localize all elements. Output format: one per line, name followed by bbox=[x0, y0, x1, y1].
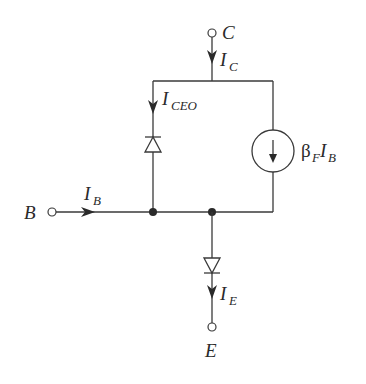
svg-text:C: C bbox=[229, 59, 238, 74]
base-wire bbox=[56, 207, 273, 217]
svg-text:I: I bbox=[161, 88, 170, 109]
junction-dot-left bbox=[149, 208, 157, 216]
svg-text:CEO: CEO bbox=[171, 98, 198, 113]
leakage-diode-icon bbox=[145, 137, 161, 152]
collector-wire bbox=[207, 37, 217, 81]
current-source-icon bbox=[252, 130, 294, 172]
current-source-label: β F I B bbox=[301, 140, 336, 165]
svg-text:β: β bbox=[301, 140, 311, 161]
emitter-branch bbox=[204, 212, 220, 323]
ib-label: I B bbox=[83, 183, 101, 208]
svg-text:E: E bbox=[228, 293, 237, 308]
svg-text:B: B bbox=[93, 193, 101, 208]
svg-text:I: I bbox=[219, 283, 228, 304]
ic-label: I C bbox=[219, 49, 238, 74]
base-label: B bbox=[24, 202, 36, 223]
svg-text:I: I bbox=[83, 183, 92, 204]
svg-text:I: I bbox=[319, 140, 328, 161]
current-source-branch bbox=[252, 81, 294, 212]
emitter-label: E bbox=[204, 340, 217, 361]
svg-text:B: B bbox=[328, 150, 336, 165]
circuit-diagram: C I C I CEO β F I bbox=[0, 0, 366, 384]
base-terminal: B bbox=[24, 202, 56, 223]
collector-label: C bbox=[222, 22, 235, 43]
emitter-terminal: E bbox=[204, 323, 217, 361]
iceo-branch bbox=[145, 81, 161, 212]
iceo-label: I CEO bbox=[161, 88, 198, 113]
svg-text:I: I bbox=[219, 49, 228, 70]
emitter-diode-icon bbox=[204, 258, 220, 273]
ie-label: I E bbox=[219, 283, 237, 308]
